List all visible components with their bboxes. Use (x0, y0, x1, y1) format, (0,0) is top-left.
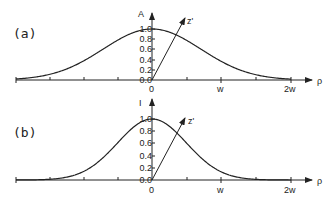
panel-a: (a) ρ 0 w 2w A 1.0 0.8 0 (13, 9, 322, 94)
intensity-curve (16, 119, 291, 180)
gaussian-profile-diagram: (a) ρ 0 w 2w A 1.0 0.8 0 (0, 0, 331, 209)
svg-text:0.0: 0.0 (139, 175, 152, 185)
svg-text:0.6: 0.6 (139, 138, 152, 148)
x-axis-label: ρ (317, 176, 322, 186)
y-axis-label: A (138, 9, 144, 19)
amplitude-curve (16, 29, 291, 79)
y-axis-label: I (139, 98, 142, 108)
y-tick-labels: 1.0 0.8 0.6 0.4 0.2 0.0 (139, 114, 152, 185)
x-tick-0: 0 (149, 185, 154, 195)
x-axis-label: ρ (317, 76, 322, 86)
panel-a-label: (a) (13, 26, 36, 41)
x-tick-2w: 2w (284, 84, 296, 94)
z-prime-axis (152, 18, 185, 80)
svg-text:0.8: 0.8 (139, 34, 152, 44)
svg-text:0.4: 0.4 (139, 151, 152, 161)
x-tick-w: w (216, 84, 224, 94)
x-tick-2w: 2w (284, 185, 296, 195)
x-tick-0: 0 (149, 84, 154, 94)
z-prime-axis (152, 118, 185, 180)
svg-text:0.8: 0.8 (139, 126, 152, 136)
x-tick-w: w (216, 185, 224, 195)
panel-b-label: (b) (13, 125, 36, 140)
panel-b: (b) ρ 0 w 2w I 1.0 0.8 0.6 0 (13, 98, 322, 195)
svg-text:0.0: 0.0 (139, 75, 152, 85)
svg-text:0.6: 0.6 (139, 44, 152, 54)
z-prime-label: z' (187, 16, 194, 26)
svg-text:0.2: 0.2 (139, 163, 152, 173)
z-prime-label: z' (188, 116, 195, 126)
svg-text:0.2: 0.2 (139, 65, 152, 75)
y-tick-labels: 1.0 0.8 0.6 0.4 0.2 0.0 (139, 24, 152, 85)
svg-text:0.4: 0.4 (139, 55, 152, 65)
